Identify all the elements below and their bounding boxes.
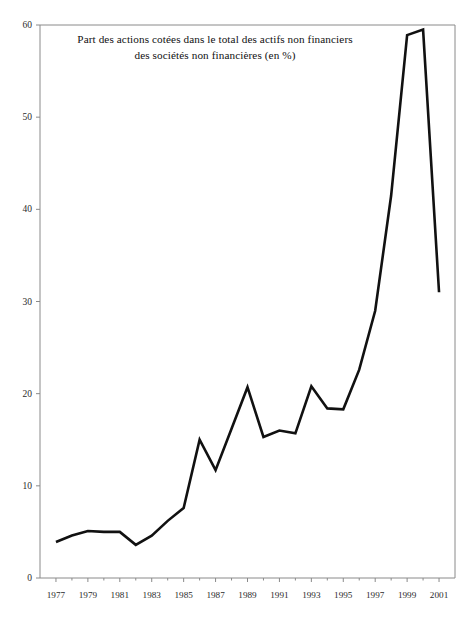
plot-area [0, 0, 475, 626]
x-tick-label: 1997 [358, 590, 392, 600]
x-tick-label: 1983 [135, 590, 169, 600]
y-tick-label: 0 [8, 573, 32, 583]
tick-marks [36, 25, 439, 582]
data-series-line [56, 30, 439, 545]
y-tick-label: 60 [8, 20, 32, 30]
x-tick-label: 1999 [390, 590, 424, 600]
x-tick-label: 1989 [231, 590, 265, 600]
y-tick-label: 10 [8, 481, 32, 491]
x-tick-label: 1977 [39, 590, 73, 600]
y-tick-label: 40 [8, 204, 32, 214]
y-tick-label: 30 [8, 297, 32, 307]
x-tick-label: 2001 [422, 590, 456, 600]
x-tick-label: 1987 [199, 590, 233, 600]
chart-figure: Part des actions cotées dans le total de… [0, 0, 475, 626]
x-tick-label: 1991 [262, 590, 296, 600]
axes [40, 25, 455, 578]
y-tick-label: 50 [8, 112, 32, 122]
y-tick-label: 20 [8, 389, 32, 399]
x-tick-label: 1985 [167, 590, 201, 600]
x-tick-label: 1995 [326, 590, 360, 600]
x-tick-label: 1981 [103, 590, 137, 600]
x-tick-label: 1979 [71, 590, 105, 600]
x-tick-label: 1993 [294, 590, 328, 600]
